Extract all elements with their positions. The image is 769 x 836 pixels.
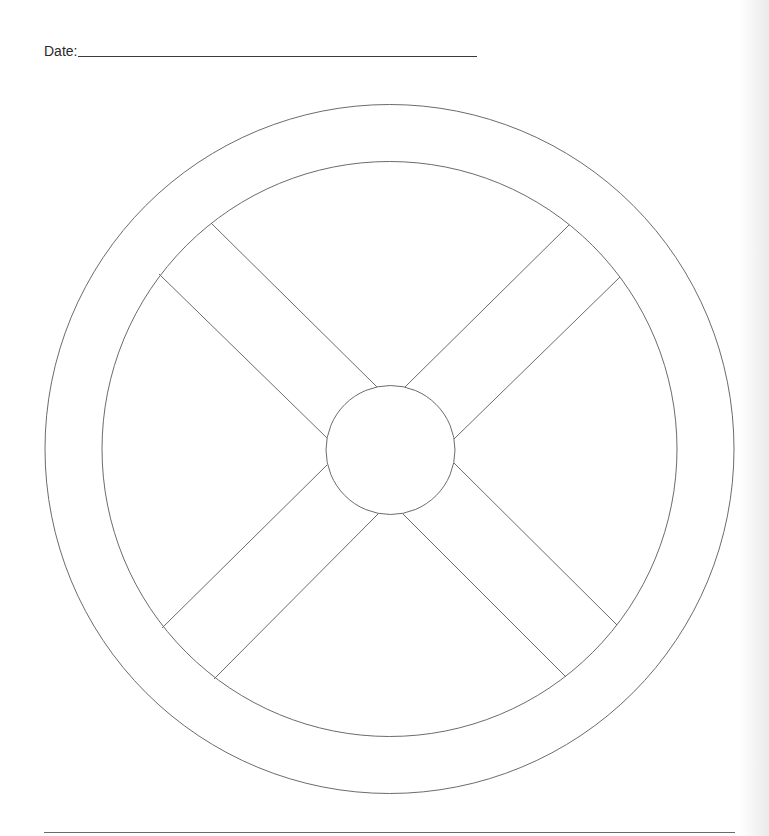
spoke-edge bbox=[159, 274, 327, 438]
spoke-edge bbox=[211, 223, 377, 387]
wheel-diagram bbox=[0, 0, 769, 836]
spoke-edge bbox=[405, 225, 569, 387]
inner-rim bbox=[102, 162, 677, 737]
spoke-edge bbox=[214, 514, 378, 679]
spokes bbox=[159, 223, 620, 679]
spoke-edge bbox=[454, 277, 620, 439]
wheel-hub bbox=[326, 386, 455, 515]
outer-rim bbox=[45, 105, 734, 794]
spoke-edge bbox=[454, 463, 617, 625]
bottom-rule bbox=[44, 832, 735, 833]
spoke-upper-right bbox=[405, 225, 620, 439]
spoke-lower-right bbox=[403, 463, 617, 677]
spoke-upper-left bbox=[159, 223, 377, 438]
spoke-edge bbox=[403, 514, 566, 677]
spoke-lower-left bbox=[162, 465, 378, 679]
spoke-edge bbox=[162, 465, 327, 628]
